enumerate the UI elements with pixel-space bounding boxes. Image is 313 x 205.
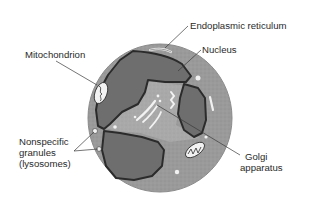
leader-er bbox=[165, 26, 188, 48]
label-golgi-line-1: Golgi bbox=[240, 151, 283, 162]
label-nonspecific-granules: Nonspecific granules (lysosomes) bbox=[19, 136, 71, 169]
label-granules-line-3: (lysosomes) bbox=[19, 158, 71, 169]
granule bbox=[175, 170, 179, 174]
leader-mitochondrion bbox=[56, 61, 97, 85]
vesicle bbox=[157, 95, 160, 98]
vesicle bbox=[113, 125, 117, 129]
label-endoplasmic-reticulum: Endoplasmic reticulum bbox=[190, 20, 287, 31]
label-golgi-apparatus: Golgi apparatus bbox=[240, 151, 283, 173]
label-granules-line-1: Nonspecific bbox=[19, 136, 71, 147]
granule bbox=[196, 76, 201, 81]
vesicle bbox=[134, 116, 137, 119]
label-granules-line-2: granules bbox=[19, 147, 71, 158]
label-golgi-line-2: apparatus bbox=[240, 162, 283, 173]
label-mitochondrion: Mitochondrion bbox=[25, 49, 85, 60]
label-nucleus: Nucleus bbox=[202, 44, 237, 55]
cell-diagram: Endoplasmic reticulum Nucleus Mitochondr… bbox=[0, 0, 313, 205]
granule bbox=[204, 135, 207, 138]
vesicle bbox=[159, 100, 162, 103]
